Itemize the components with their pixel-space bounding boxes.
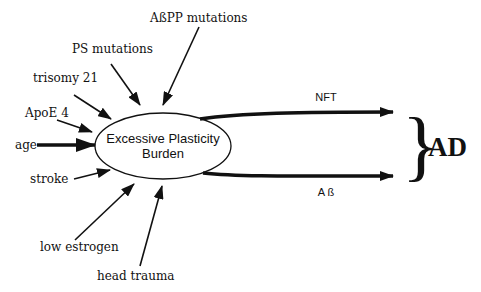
arrow-trisomy-icon	[74, 95, 111, 119]
pathway-label-abeta: A ß	[318, 186, 335, 198]
factor-low-estrogen: low estrogen	[40, 184, 134, 254]
factor-age: age	[15, 138, 95, 152]
central-node-label-line2: Burden	[142, 146, 184, 161]
outcome-label: AD	[428, 132, 467, 162]
factor-label-age: age	[15, 138, 37, 152]
arrow-abpp-icon	[163, 27, 199, 105]
pathogenesis-diagram: Excessive Plasticity Burden AßPP mutatio…	[0, 0, 481, 292]
factor-label-abpp: AßPP mutations	[149, 11, 248, 25]
factor-apoe4: ApoE 4	[24, 106, 92, 132]
central-node-label-line1: Excessive Plasticity	[106, 131, 220, 146]
arrow-estrogen-icon	[75, 184, 134, 240]
arrow-abeta-icon	[203, 173, 393, 176]
arrow-stroke-icon	[74, 170, 110, 179]
arrow-ps-icon	[111, 64, 140, 105]
pathway-label-nft: NFT	[315, 91, 337, 103]
pathway-abeta: A ß	[203, 173, 393, 198]
factor-label-stroke: stroke	[30, 172, 68, 186]
arrow-nft-icon	[200, 112, 393, 119]
factor-label-estrogen: low estrogen	[40, 240, 119, 254]
factor-stroke: stroke	[30, 170, 110, 186]
factor-label-ps: PS mutations	[72, 42, 153, 56]
arrow-apoe-icon	[57, 120, 92, 132]
factor-label-apoe: ApoE 4	[24, 106, 69, 120]
factor-label-trauma: head trauma	[97, 269, 174, 283]
outcome-ad: } AD	[402, 102, 467, 189]
pathway-nft: NFT	[200, 91, 393, 119]
arrow-trauma-icon	[140, 186, 162, 266]
central-node: Excessive Plasticity Burden	[95, 113, 231, 179]
factor-abpp-mutations: AßPP mutations	[149, 11, 248, 105]
factor-head-trauma: head trauma	[97, 186, 174, 283]
factor-label-trisomy: trisomy 21	[33, 71, 98, 85]
